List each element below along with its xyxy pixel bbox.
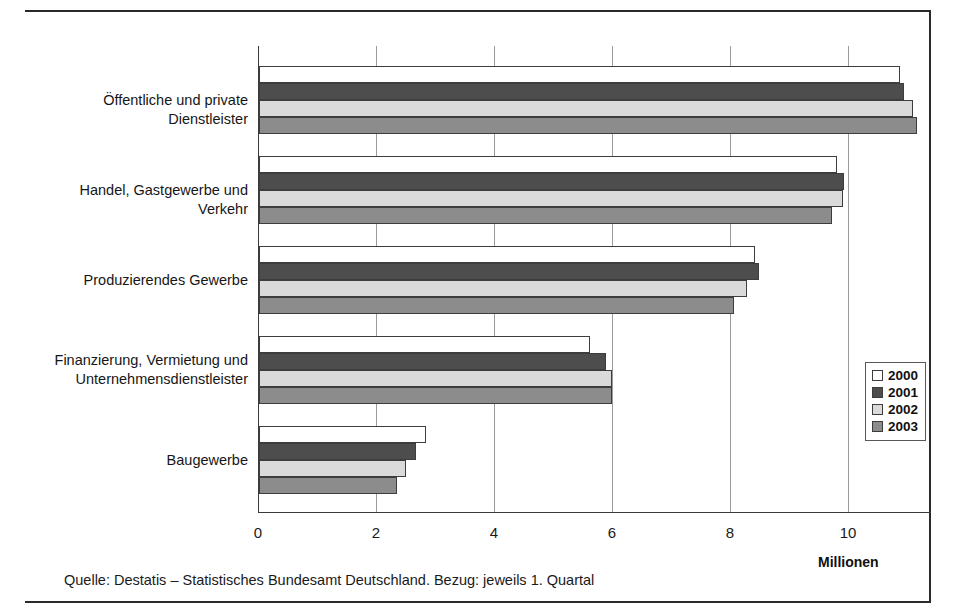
bar-2001: [259, 83, 904, 100]
category-label: Handel, Gastgewerbe und Verkehr: [28, 181, 248, 219]
legend-item: 2002: [872, 401, 918, 418]
bar-2003: [259, 117, 917, 134]
bar-2002: [259, 460, 406, 477]
bar-2000: [259, 336, 590, 353]
bar-2003: [259, 477, 397, 494]
page-rule-top: [25, 10, 930, 12]
category-label: Baugewerbe: [167, 451, 248, 470]
legend-swatch-icon: [872, 404, 883, 415]
legend-label: 2002: [888, 402, 918, 417]
legend-item: 2003: [872, 418, 918, 435]
legend-swatch-icon: [872, 387, 883, 398]
bar-2001: [259, 263, 759, 280]
bar-2000: [259, 156, 837, 173]
page-rule-bottom: [25, 601, 930, 603]
page-rule-right: [929, 10, 931, 603]
x-tick-label: 10: [828, 524, 868, 541]
legend-label: 2000: [888, 368, 918, 383]
bar-2000: [259, 66, 900, 83]
x-tick-label: 6: [592, 524, 632, 541]
x-tick-label: 4: [474, 524, 514, 541]
bar-2003: [259, 387, 612, 404]
chart-legend: 2000200120022003: [865, 362, 926, 441]
bar-2000: [259, 246, 755, 263]
x-tick-label: 8: [710, 524, 750, 541]
legend-label: 2001: [888, 385, 918, 400]
bar-2002: [259, 370, 612, 387]
document-page: 0246810 Millionen Öffentliche und privat…: [0, 0, 957, 611]
bar-2001: [259, 443, 416, 460]
legend-label: 2003: [888, 419, 918, 434]
bar-2002: [259, 190, 843, 207]
bar-2003: [259, 297, 734, 314]
legend-item: 2000: [872, 367, 918, 384]
bar-2000: [259, 426, 426, 443]
x-tick-label: 0: [238, 524, 278, 541]
category-label: Produzierendes Gewerbe: [84, 271, 248, 290]
x-axis-unit-label: Millionen: [818, 554, 879, 570]
legend-swatch-icon: [872, 421, 883, 432]
x-tick-label: 2: [356, 524, 396, 541]
category-label: Finanzierung, Vermietung und Unternehmen…: [55, 351, 248, 389]
bar-2001: [259, 353, 606, 370]
bar-2003: [259, 207, 832, 224]
source-caption: Quelle: Destatis – Statistisches Bundesa…: [64, 572, 594, 588]
bar-chart-figure: 0246810 Millionen Öffentliche und privat…: [28, 24, 924, 584]
bar-2002: [259, 280, 747, 297]
bar-2001: [259, 173, 844, 190]
category-label: Öffentliche und private Dienstleister: [28, 91, 248, 129]
category-axis-line: [258, 512, 931, 513]
legend-item: 2001: [872, 384, 918, 401]
legend-swatch-icon: [872, 370, 883, 381]
bar-2002: [259, 100, 913, 117]
plot-area: 0246810 Millionen: [258, 46, 858, 512]
